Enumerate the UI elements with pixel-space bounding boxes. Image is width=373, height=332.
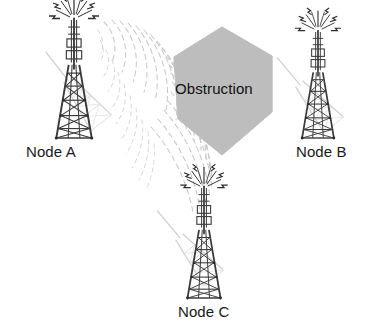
node-a-emission-icon [49, 0, 99, 19]
node-c-emission-icon [180, 164, 228, 187]
obstruction-label: Obstruction [175, 80, 253, 97]
node-c-tower [186, 186, 222, 300]
node-b-label: Node B [296, 143, 347, 160]
node-a-tower [55, 18, 93, 140]
node-b-group[interactable] [267, 8, 343, 139]
diagram-canvas: Node A Node B Node C Obstruction [0, 0, 373, 332]
node-a-label: Node A [26, 143, 76, 160]
node-a-group[interactable] [36, 0, 112, 140]
node-b-emission-icon [295, 8, 341, 31]
node-c-group[interactable] [147, 164, 227, 299]
node-c-label: Node C [178, 303, 229, 320]
diagram-scene [0, 0, 373, 332]
